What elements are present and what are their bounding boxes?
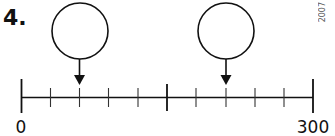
arrow-1	[74, 59, 85, 85]
answer-circle-1[interactable]	[52, 3, 108, 59]
end-label: 300	[297, 117, 329, 136]
answer-circle-2[interactable]	[198, 3, 254, 59]
number-line-diagram	[0, 0, 335, 136]
major-ticks	[22, 79, 314, 113]
start-label: 0	[16, 117, 27, 136]
arrow-2	[221, 59, 232, 85]
